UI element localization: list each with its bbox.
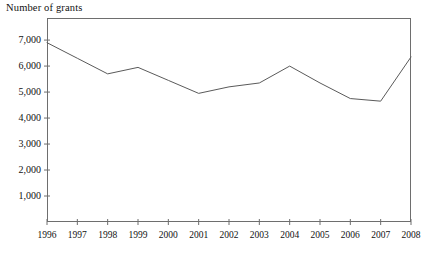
- y-axis-tick-label: 4,000: [1, 113, 41, 123]
- x-axis-tick-label: 2006: [333, 230, 367, 240]
- y-axis-tick-label: 1,000: [1, 191, 41, 201]
- y-axis-tick-label: 6,000: [1, 61, 41, 71]
- y-axis-tick-label: 7,000: [1, 35, 41, 45]
- y-axis-ticks: [44, 40, 50, 196]
- x-axis-tick-label: 1998: [91, 230, 125, 240]
- x-axis-tick-label: 2003: [242, 230, 276, 240]
- line-chart: Number of grants 1,0002,0003,0004,0005,0…: [0, 0, 428, 259]
- x-axis-tick-label: 2004: [273, 230, 307, 240]
- x-axis-tick-label: 2008: [394, 230, 428, 240]
- x-axis-tick-label: 2000: [151, 230, 185, 240]
- y-axis-tick-label: 3,000: [1, 139, 41, 149]
- x-axis-tick-label: 2001: [182, 230, 216, 240]
- y-axis-tick-label: 2,000: [1, 165, 41, 175]
- x-axis-tick-label: 2002: [212, 230, 246, 240]
- chart-svg-layer: [0, 0, 428, 259]
- x-axis-ticks: [47, 219, 411, 225]
- y-axis-tick-label: 5,000: [1, 87, 41, 97]
- x-axis-tick-label: 2007: [364, 230, 398, 240]
- x-axis-tick-label: 1996: [30, 230, 64, 240]
- x-axis-tick-label: 2005: [303, 230, 337, 240]
- x-axis-tick-label: 1997: [60, 230, 94, 240]
- data-line-number-of-grants: [47, 43, 411, 101]
- x-axis-tick-label: 1999: [121, 230, 155, 240]
